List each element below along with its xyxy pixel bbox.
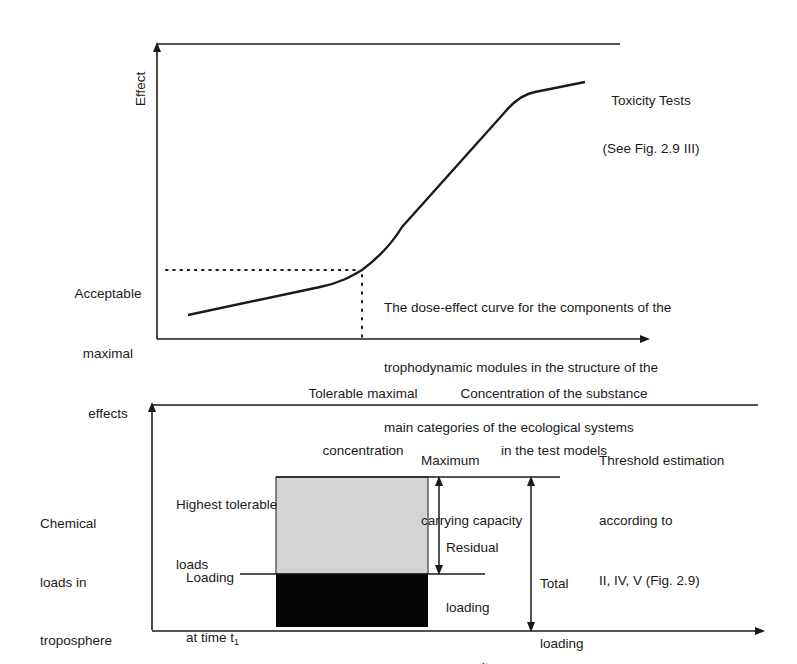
total-loading-capacity-label: Total loading capacity	[540, 534, 590, 664]
chemical-loads-axis-label: Chemical loads in troposphere & HGMU com…	[40, 475, 126, 664]
toxicity-tests-line1: Toxicity Tests	[556, 93, 746, 109]
tolerable-line2: concentration	[290, 441, 436, 460]
concentration-line1: Concentration of the substance	[446, 384, 662, 403]
threshold-line2: according to	[599, 511, 724, 531]
threshold-estimation-label: Threshold estimation according to II, IV…	[599, 411, 724, 611]
loading-line2: at time t1	[186, 628, 239, 652]
acceptable-line3: effects	[58, 404, 158, 424]
loading-at-time-label: Loading at time t1	[186, 528, 239, 664]
threshold-line1: Threshold estimation	[599, 451, 724, 471]
loading-line1: Loading	[186, 568, 239, 588]
current-load-block	[276, 574, 428, 627]
highest-line1: Highest tolerable	[176, 495, 277, 515]
chemical-loads-line2: loads in	[40, 573, 126, 593]
residual-line1: Residual	[446, 538, 499, 558]
loading-line2-text: at time t	[186, 630, 234, 645]
tolerable-maximal-concentration-label: Tolerable maximal concentration	[290, 346, 436, 479]
total-line1: Total	[540, 574, 590, 594]
time-subscript: 1	[234, 637, 239, 647]
residual-line2: loading	[446, 598, 499, 618]
residual-line3: capacity	[446, 658, 499, 664]
chemical-loads-line1: Chemical	[40, 514, 126, 534]
toxicity-tests-label: Toxicity Tests (See Fig. 2.9 III)	[556, 61, 746, 173]
acceptable-line2: maximal	[58, 344, 158, 364]
chemical-loads-line3: troposphere	[40, 631, 126, 651]
effect-axis-label: Effect	[133, 72, 148, 106]
acceptable-maximal-effects-label: Acceptable maximal effects	[58, 244, 158, 444]
total-line2: loading	[540, 634, 590, 654]
tolerable-line1: Tolerable maximal	[290, 384, 436, 403]
acceptable-line1: Acceptable	[58, 284, 158, 304]
residual-loading-capacity-label: Residual loading capacity	[446, 498, 499, 664]
toxicity-tests-line2: (See Fig. 2.9 III)	[556, 141, 746, 157]
threshold-line3: II, IV, V (Fig. 2.9)	[599, 571, 724, 591]
residual-capacity-block	[276, 477, 428, 574]
description-line1: The dose-effect curve for the components…	[384, 298, 671, 318]
max-capacity-line1: Maximum	[421, 451, 522, 471]
